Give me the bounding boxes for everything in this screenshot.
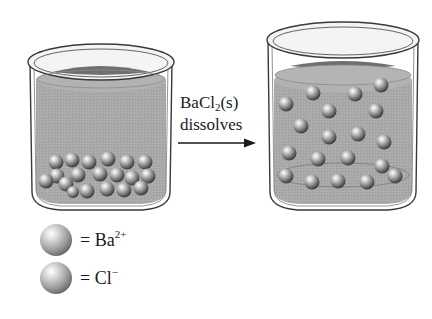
chloride-ion-sphere-icon — [40, 262, 72, 294]
reaction-arrow — [178, 139, 256, 148]
arrow-label-action: dissolves — [180, 115, 242, 135]
legend-label-barium: = Ba2+ — [80, 230, 126, 251]
beaker-before — [28, 44, 174, 210]
barium-ion-sphere-icon — [40, 224, 72, 256]
arrowhead-icon — [244, 139, 256, 148]
legend-item-barium: = Ba2+ — [40, 224, 126, 256]
legend-label-chloride: = Cl− — [80, 268, 118, 289]
legend-item-chloride: = Cl− — [40, 262, 118, 294]
beaker-after — [267, 22, 419, 210]
arrow-label-formula: BaCl2(s) — [180, 93, 238, 113]
